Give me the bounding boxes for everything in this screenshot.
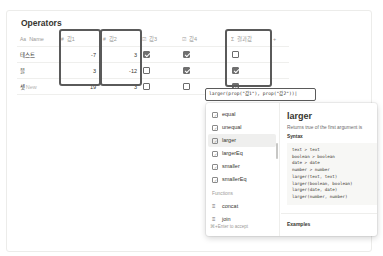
value3-checkbox[interactable] (143, 83, 150, 90)
function-detail-description: Returns true of the first argument is (287, 125, 377, 130)
column-header-value1[interactable]: #값1 (61, 31, 75, 47)
checkbox-type-icon: ☑ (142, 31, 146, 47)
table-header-row: AaName #값1 #값2 ☑값3 ☑값4 Σ결과값 + (17, 31, 289, 47)
value1-cell[interactable]: -7 (61, 47, 96, 63)
column-header-name[interactable]: AaName (20, 31, 44, 47)
table-row[interactable]: 테스트 -7 3 (17, 47, 289, 63)
suggestion-smaller[interactable]: ✓smaller (208, 160, 276, 173)
syntax-code-block: text > text boolean > boolean date > dat… (287, 143, 377, 205)
value3-checkbox[interactable] (143, 67, 150, 74)
text-function-icon: ≡ (212, 216, 216, 222)
table-row[interactable]: 블 3 -12 (17, 63, 289, 79)
formula-autocomplete-popup: ✓equal ✓unequal ✓larger ✓largerEq ✓small… (206, 103, 377, 236)
function-detail-title: larger (287, 111, 377, 121)
value2-cell[interactable]: 3 (103, 79, 137, 95)
formula-type-icon: Σ (231, 31, 234, 47)
result-checkbox (232, 67, 239, 74)
suggestion-concat[interactable]: ≡concat (208, 200, 276, 213)
syntax-heading: Syntax (287, 134, 377, 139)
suggestion-list-scrollbar[interactable] (276, 143, 278, 159)
column-header-value2[interactable]: #값2 (103, 31, 117, 47)
new-row-button[interactable]: + New (21, 84, 37, 90)
suggestion-largerEq[interactable]: ✓largerEq (208, 147, 276, 160)
suggestion-equal[interactable]: ✓equal (208, 108, 276, 121)
value4-checkbox[interactable] (183, 67, 190, 74)
column-header-value4[interactable]: ☑값4 (182, 31, 197, 47)
value4-checkbox[interactable] (183, 83, 190, 90)
function-detail-panel: larger Returns true of the first argumen… (281, 103, 377, 236)
checkbox-type-icon: ☑ (182, 31, 186, 47)
value1-cell[interactable]: 3 (61, 63, 96, 79)
suggestion-list: ✓equal ✓unequal ✓larger ✓largerEq ✓small… (206, 103, 280, 236)
value2-cell[interactable]: -12 (103, 63, 137, 79)
boolean-operator-icon: ✓ (212, 112, 218, 118)
result-checkbox (232, 51, 239, 58)
suggestion-smallerEq[interactable]: ✓smallerEq (208, 173, 276, 186)
suggestion-join[interactable]: ≡join (208, 213, 276, 222)
value2-cell[interactable]: 3 (103, 47, 137, 63)
column-header-value3[interactable]: ☑값3 (142, 31, 157, 47)
number-type-icon: # (103, 31, 106, 47)
boolean-operator-icon: ✓ (212, 125, 218, 131)
detail-divider (281, 213, 377, 214)
boolean-operator-icon: ✓ (212, 177, 218, 183)
add-column-button[interactable]: + (273, 31, 276, 47)
suggestion-larger[interactable]: ✓larger (208, 134, 276, 147)
column-header-result[interactable]: Σ결과값 (231, 31, 252, 47)
accept-hint: ⌘+Enter to accept (210, 224, 248, 229)
examples-heading: Examples (287, 221, 310, 227)
text-type-icon: Aa (20, 31, 26, 47)
row-name[interactable]: 블 (20, 63, 25, 79)
boolean-operator-icon: ✓ (212, 138, 218, 144)
row-name[interactable]: 테스트 (20, 47, 35, 63)
functions-section-label: Functions (212, 191, 233, 196)
number-type-icon: # (61, 31, 64, 47)
boolean-operator-icon: ✓ (212, 151, 218, 157)
formula-input[interactable]: larger(prop("값1"), prop("값2"))| (205, 88, 316, 101)
boolean-operator-icon: ✓ (212, 164, 218, 170)
value3-checkbox[interactable] (143, 51, 150, 58)
value1-cell[interactable]: 19 (61, 79, 96, 95)
database-title: Operators (21, 18, 62, 28)
suggestion-unequal[interactable]: ✓unequal (208, 121, 276, 134)
value4-checkbox[interactable] (183, 51, 190, 58)
text-function-icon: ≡ (212, 203, 216, 210)
